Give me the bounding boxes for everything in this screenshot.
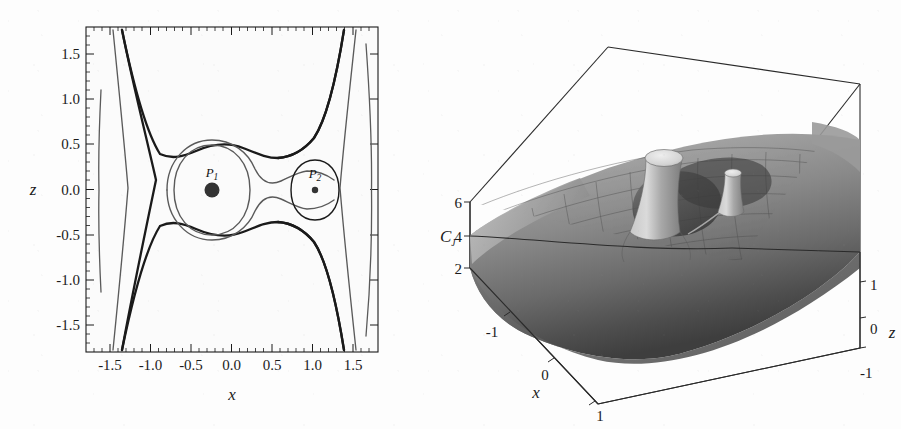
contour-y-tick-labels: -1.5 -1.0 -0.5 0.0 0.5 1.0 1.5 xyxy=(56,46,80,333)
marker-p2 xyxy=(312,187,318,193)
figure-root: P1 P2 -1.5 -1.0 -0.5 0.0 0.5 1.0 1.5 -1.… xyxy=(0,0,901,429)
surface-z-tick-0: 0 xyxy=(870,321,878,337)
marker-p1 xyxy=(205,183,220,198)
cj-tick-4: 4 xyxy=(455,229,463,245)
surface-xlabel: x xyxy=(531,383,540,402)
y-tick-2: -0.5 xyxy=(56,227,80,243)
x-tick-3: 0.0 xyxy=(222,357,241,373)
y-tick-0: -1.5 xyxy=(56,317,80,333)
surface-spike-p2-cap xyxy=(725,169,742,177)
surface-z-tick-labels: 1 0 -1 xyxy=(860,277,878,381)
surface-vertical-axis xyxy=(464,202,470,268)
x-tick-2: -0.5 xyxy=(179,357,203,373)
surface-spike-p1-cap xyxy=(645,150,683,167)
contour-ylabel: z xyxy=(29,180,37,199)
surface-x-tick-0: 0 xyxy=(541,367,549,383)
x-tick-5: 1.0 xyxy=(303,357,322,373)
contour-plot-panel: P1 P2 -1.5 -1.0 -0.5 0.0 0.5 1.0 1.5 -1.… xyxy=(0,0,440,429)
contour-xlabel: x xyxy=(227,385,236,404)
contour-plot-svg: P1 P2 -1.5 -1.0 -0.5 0.0 0.5 1.0 1.5 -1.… xyxy=(0,0,440,429)
surface-x-tick-1: 1 xyxy=(596,408,604,424)
contour-x-tick-labels: -1.5 -1.0 -0.5 0.0 0.5 1.0 1.5 xyxy=(98,357,362,373)
y-tick-4: 0.5 xyxy=(61,136,80,152)
x-tick-0: -1.5 xyxy=(98,357,122,373)
x-tick-4: 0.5 xyxy=(263,357,282,373)
y-tick-1: -1.0 xyxy=(56,272,80,288)
surface-plot-svg: 6 4 2 CJ -1 0 1 x xyxy=(440,0,901,429)
cj-tick-2: 2 xyxy=(455,261,463,277)
surface-vertical-tick-labels: 6 4 2 xyxy=(455,195,463,277)
y-tick-3: 0.0 xyxy=(61,182,80,198)
surface-mesh xyxy=(470,122,860,364)
surface-plot-panel: 6 4 2 CJ -1 0 1 x xyxy=(440,0,901,429)
surface-x-tick-neg1: -1 xyxy=(486,324,499,340)
y-tick-5: 1.0 xyxy=(61,91,80,107)
surface-z-axis-ticks xyxy=(860,281,866,348)
surface-z-tick-neg1: -1 xyxy=(860,365,873,381)
surface-z-tick-1: 1 xyxy=(870,277,878,293)
surface-zlabel: z xyxy=(888,323,896,342)
x-tick-6: 1.5 xyxy=(344,357,363,373)
x-tick-1: -1.0 xyxy=(139,357,163,373)
cj-tick-6: 6 xyxy=(455,195,463,211)
y-tick-6: 1.5 xyxy=(61,46,80,62)
